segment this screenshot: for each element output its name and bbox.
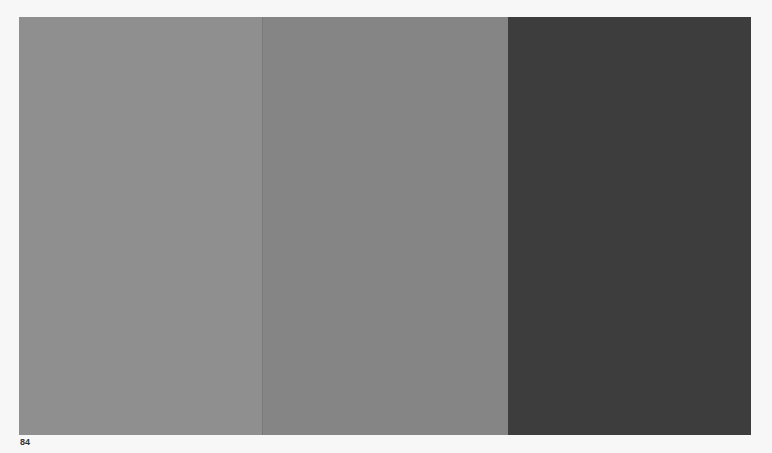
page-number: 84 <box>20 437 30 447</box>
swatch-panel-light <box>19 17 262 435</box>
swatch-panel-mid <box>262 17 508 435</box>
swatch-panel-dark <box>508 17 751 435</box>
